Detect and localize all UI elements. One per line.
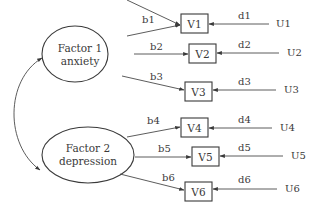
error-path-label-d2: d2 bbox=[238, 39, 251, 50]
variable-v2-node: V2 bbox=[189, 44, 216, 63]
factor-1-name: Factor 1 bbox=[58, 42, 102, 54]
loading-label-b5: b5 bbox=[158, 143, 171, 154]
error-path-label-d3: d3 bbox=[238, 76, 251, 87]
error-term-u4: U4 bbox=[280, 122, 295, 133]
variable-v3-label: V3 bbox=[190, 86, 205, 98]
variable-v6-label: V6 bbox=[190, 186, 206, 198]
error-term-u3: U3 bbox=[284, 84, 299, 95]
variable-v1-label: V1 bbox=[186, 18, 201, 30]
factor-1-construct: anxiety bbox=[61, 55, 100, 67]
variable-v4-label: V4 bbox=[186, 122, 202, 134]
variable-v3-node: V3 bbox=[185, 82, 212, 101]
error-term-u2: U2 bbox=[287, 47, 302, 58]
error-term-u5: U5 bbox=[291, 150, 306, 161]
variable-v2-label: V2 bbox=[194, 48, 209, 60]
loading-label-b6: b6 bbox=[162, 172, 175, 183]
loading-label-b2: b2 bbox=[150, 41, 163, 52]
loading-label-b4: b4 bbox=[147, 115, 160, 126]
variable-v5-label: V5 bbox=[197, 151, 212, 163]
variable-v5-node: V5 bbox=[192, 147, 219, 166]
error-term-u1: U1 bbox=[276, 18, 291, 29]
loading-arrow-b1 bbox=[127, 25, 180, 36]
loading-arrow-b4 bbox=[127, 127, 180, 137]
error-term-u6: U6 bbox=[285, 183, 300, 194]
error-path-label-d1: d1 bbox=[238, 10, 251, 21]
error-path-label-d5: d5 bbox=[238, 142, 251, 153]
loading-label-b1: b1 bbox=[142, 14, 155, 25]
factor-1-node: Factor 1 anxiety bbox=[42, 26, 108, 82]
factor-2-node: Factor 2 depression bbox=[42, 127, 134, 183]
sem-diagram: Factor 1 anxiety Factor 2 depression b1 … bbox=[0, 0, 320, 215]
covariance-arrow bbox=[14, 58, 42, 170]
variable-v6-node: V6 bbox=[185, 182, 212, 201]
factor-2-construct: depression bbox=[59, 155, 117, 167]
factor-2-name: Factor 2 bbox=[66, 142, 110, 154]
error-path-label-d6: d6 bbox=[238, 174, 251, 185]
variable-v1-node: V1 bbox=[181, 14, 208, 33]
variable-v4-node: V4 bbox=[181, 118, 208, 137]
loading-label-b3: b3 bbox=[150, 71, 163, 82]
error-path-label-d4: d4 bbox=[238, 114, 251, 125]
